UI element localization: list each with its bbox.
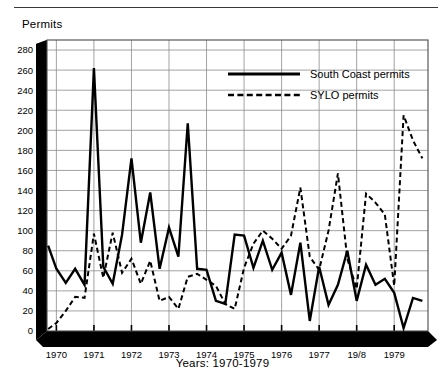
x-axis-title: Years: 1970-1979 xyxy=(0,357,445,369)
legend-label-2: SYLO permits xyxy=(310,89,379,101)
y-tick-label: 180 xyxy=(17,145,33,156)
y-tick-label: 80 xyxy=(22,245,33,256)
y-tick-label: 240 xyxy=(17,85,33,96)
y-tick-label: 160 xyxy=(17,165,33,176)
y-tick-label: 0 xyxy=(28,325,33,336)
series-layer xyxy=(48,68,422,329)
grid-layer xyxy=(47,40,428,331)
axis-frame xyxy=(36,40,437,347)
y-tick-label: 40 xyxy=(22,285,33,296)
series-line-1 xyxy=(48,68,422,328)
y-tick-label: 200 xyxy=(17,125,33,136)
y-tick-label: 140 xyxy=(17,185,33,196)
y-tick-label: 20 xyxy=(22,305,33,316)
y-tick-label: 60 xyxy=(22,265,33,276)
chart-canvas: 0204060801001201401601802002202402602801… xyxy=(0,0,445,383)
permits-chart-figure: Permits 02040608010012014016018020022024… xyxy=(0,0,445,383)
y-tick-label: 220 xyxy=(17,105,33,116)
y-tick-label: 260 xyxy=(17,65,33,76)
y-tick-label: 100 xyxy=(17,225,33,236)
series-line-2 xyxy=(48,115,422,329)
y-tick-label: 280 xyxy=(17,44,33,55)
y-tick-label: 120 xyxy=(17,205,33,216)
legend-label-1: South Coast permits xyxy=(310,68,410,80)
